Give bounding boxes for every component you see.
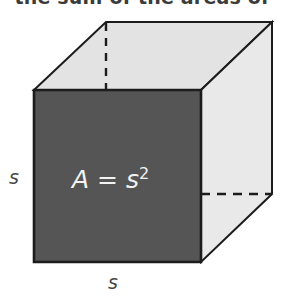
label-left-side-s: s — [9, 166, 19, 188]
cube-diagram: s s A = s2 — [0, 0, 284, 303]
figure-page: the sum of the areas of s s A = s2 — [0, 0, 284, 303]
formula-exponent: 2 — [139, 164, 149, 183]
label-bottom-side-s: s — [108, 271, 118, 293]
label-front-face-formula: A = s2 — [70, 164, 149, 194]
formula-base: A = s — [70, 165, 139, 194]
